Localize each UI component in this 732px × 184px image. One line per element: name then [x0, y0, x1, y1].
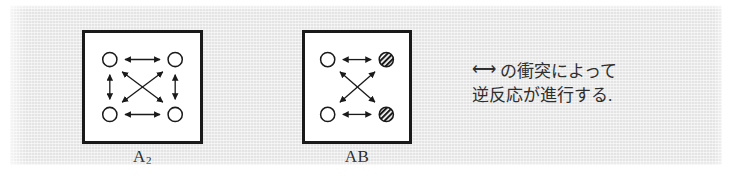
figure-root: A2: [0, 0, 732, 184]
panel-a2-diagram: [85, 33, 200, 141]
node-bottom-right-open: [168, 107, 182, 121]
panel-a2: [82, 30, 203, 144]
node-top-left-open: [321, 52, 335, 66]
plate-fade-left: [0, 0, 26, 184]
panel-ab: [302, 30, 412, 144]
node-top-right-hatched: [379, 52, 393, 66]
panel-ab-diagram: [305, 33, 409, 141]
annotation-text: ⟷の衝突によって 逆反応が進行する.: [472, 57, 722, 109]
node-top-right-open: [168, 52, 182, 66]
node-bottom-left-open: [103, 107, 117, 121]
node-top-left-open: [103, 52, 117, 66]
annotation-line-2: 逆反応が進行する.: [472, 83, 722, 109]
node-bottom-right-hatched: [379, 107, 393, 121]
node-bottom-left-open: [321, 107, 335, 121]
double-arrow-icon: ⟷: [472, 57, 496, 83]
plate-fade-right: [714, 0, 732, 184]
annotation-line-1-text: の衝突によって: [500, 62, 617, 81]
plate-fade-bottom: [0, 160, 732, 184]
annotation-line-1: ⟷の衝突によって: [472, 57, 722, 83]
plate-fade-top: [0, 0, 732, 10]
